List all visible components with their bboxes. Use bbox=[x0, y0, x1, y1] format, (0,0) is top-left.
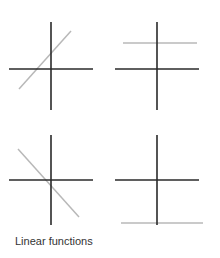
graph-panel-top-right bbox=[115, 22, 199, 110]
diagram-caption: Linear functions bbox=[15, 235, 93, 247]
function-line bbox=[19, 31, 71, 89]
graph-panel-bottom-left bbox=[9, 135, 93, 225]
graph-panel-bottom-right bbox=[115, 135, 203, 225]
function-line bbox=[18, 149, 79, 217]
linear-functions-diagram bbox=[0, 0, 220, 258]
graph-panel-top-left bbox=[9, 22, 93, 110]
